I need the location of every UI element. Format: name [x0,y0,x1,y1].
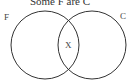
set-c-label: C [120,12,126,21]
intersection-label: X [65,41,72,50]
set-f-label: F [4,13,9,22]
